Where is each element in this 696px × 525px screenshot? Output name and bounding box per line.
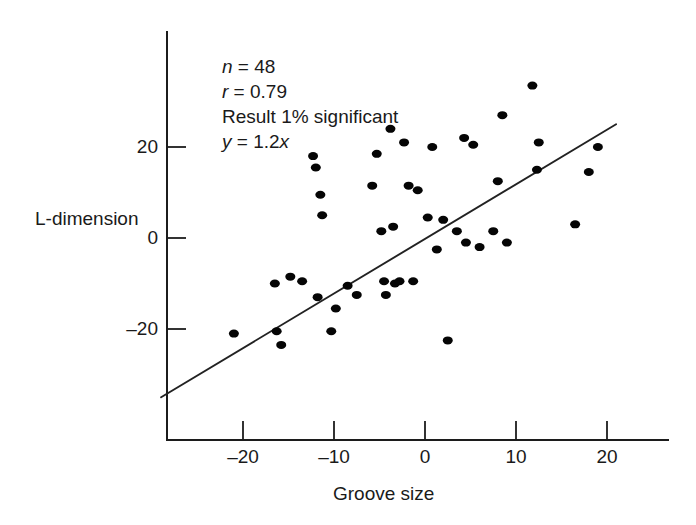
data-point — [317, 211, 327, 219]
data-point — [443, 336, 453, 344]
data-point — [593, 143, 603, 151]
data-point — [285, 273, 295, 281]
x-tick-label: 0 — [385, 446, 465, 468]
annotation-r: r = 0.79 — [222, 81, 398, 106]
data-point — [432, 245, 442, 253]
data-point — [532, 166, 542, 174]
x-ticks-group — [243, 421, 607, 440]
data-point — [326, 327, 336, 335]
data-point — [379, 277, 389, 285]
data-point — [297, 277, 307, 285]
regression-line-segment — [161, 124, 616, 397]
data-point — [488, 227, 498, 235]
data-point — [404, 182, 414, 190]
annotation-equation: y = 1.2x — [222, 131, 398, 156]
data-point — [229, 330, 239, 338]
data-point — [475, 243, 485, 251]
x-tick-label: –10 — [294, 446, 374, 468]
data-point — [311, 163, 321, 171]
x-tick-label: 20 — [567, 446, 647, 468]
annotation-x-symbol: x — [280, 131, 290, 152]
y-tick-label: –20 — [0, 318, 158, 340]
data-point — [413, 186, 423, 194]
data-point — [272, 327, 282, 335]
x-tick-label: –20 — [203, 446, 283, 468]
data-point — [427, 143, 437, 151]
scatter-plot-figure: n = 48 r = 0.79 Result 1% significant y … — [0, 0, 696, 525]
data-point — [527, 82, 537, 90]
data-point — [331, 305, 341, 313]
data-point — [438, 216, 448, 224]
data-point — [276, 341, 286, 349]
x-axis-title: Groove size — [333, 484, 434, 503]
y-tick-label: 20 — [0, 136, 158, 158]
annotation-n: n = 48 — [222, 56, 398, 81]
annotation-r-value: = 0.79 — [228, 81, 287, 102]
statistics-annotation: n = 48 r = 0.79 Result 1% significant y … — [222, 56, 398, 156]
data-point — [388, 223, 398, 231]
data-point — [376, 227, 386, 235]
data-point — [270, 280, 280, 288]
annotation-y-symbol: y — [222, 131, 232, 152]
y-axis-title: L-dimension — [35, 209, 139, 228]
data-point — [502, 239, 512, 247]
data-point — [315, 191, 325, 199]
data-point — [423, 214, 433, 222]
data-point — [497, 111, 507, 119]
annotation-n-value: = 48 — [233, 56, 276, 77]
annotation-equation-value: = 1.2 — [232, 131, 280, 152]
data-point — [493, 177, 503, 185]
data-point — [352, 291, 362, 299]
annotation-n-symbol: n — [222, 56, 233, 77]
data-point — [534, 138, 544, 146]
data-point — [343, 282, 353, 290]
y-ticks-group — [167, 147, 186, 329]
data-point — [367, 182, 377, 190]
data-point — [313, 293, 323, 301]
data-point — [381, 291, 391, 299]
data-point — [461, 239, 471, 247]
data-point — [468, 141, 478, 149]
data-point — [459, 134, 469, 142]
x-tick-label: 10 — [476, 446, 556, 468]
data-point — [408, 277, 418, 285]
y-tick-label: 0 — [0, 227, 158, 249]
annotation-significance: Result 1% significant — [222, 106, 398, 131]
data-point — [570, 220, 580, 228]
data-point — [584, 168, 594, 176]
data-point — [452, 227, 462, 235]
data-point — [399, 138, 409, 146]
regression-line — [161, 124, 616, 397]
data-point — [395, 277, 405, 285]
